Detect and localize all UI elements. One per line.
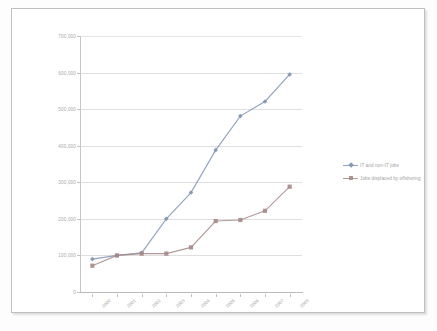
x-axis-tick — [265, 294, 266, 297]
legend-label: Jobs displaced by offshoring — [360, 176, 421, 181]
legend-item[interactable]: Jobs displaced by offshoring — [343, 174, 435, 182]
series-line — [92, 187, 289, 266]
y-axis-tick — [77, 109, 80, 110]
x-axis-tick-label: 2001 — [126, 298, 137, 309]
y-axis-tick — [77, 36, 80, 37]
y-axis-tick — [77, 292, 80, 293]
y-axis-tick-label: 500,000 — [34, 107, 76, 112]
y-axis-tick — [77, 182, 80, 183]
plot-area — [80, 36, 302, 292]
chart-page: 700,000600,000500,000400,000300,000200,0… — [0, 0, 437, 331]
data-point-marker — [90, 257, 95, 262]
y-axis-tick-label: 700,000 — [34, 34, 76, 39]
series-line — [92, 74, 289, 259]
data-point-marker — [164, 252, 168, 256]
y-axis-tick — [77, 255, 80, 256]
y-axis-tick-label: 0 — [34, 290, 76, 295]
data-point-marker — [288, 185, 292, 189]
data-point-marker — [90, 264, 94, 268]
y-axis-labels: 700,000600,000500,000400,000300,000200,0… — [26, 36, 76, 292]
value-axis-line — [80, 36, 81, 293]
y-axis-tick-label: 300,000 — [34, 180, 76, 185]
data-point-marker — [263, 209, 267, 213]
x-axis-tick — [166, 294, 167, 297]
category-axis-line — [80, 292, 303, 293]
y-axis-tick-label: 200,000 — [34, 216, 76, 221]
x-axis-tick-label: 2006 — [249, 298, 260, 309]
x-axis-tick — [117, 294, 118, 297]
y-axis-tick — [77, 219, 80, 220]
data-point-marker — [214, 219, 218, 223]
x-axis-tick — [142, 294, 143, 297]
x-axis-tick — [92, 294, 93, 297]
legend-item[interactable]: IT and non-IT jobs — [343, 161, 435, 169]
y-axis-tick — [77, 146, 80, 147]
data-point-marker — [140, 252, 144, 256]
x-axis-tick — [240, 294, 241, 297]
chart-frame: 700,000600,000500,000400,000300,000200,0… — [11, 8, 425, 313]
x-axis-tick-label: 2000 — [101, 298, 112, 309]
x-axis-tick-label: 2003 — [175, 298, 186, 309]
x-axis-tick — [191, 294, 192, 297]
x-axis-tick-label: 2004 — [200, 298, 211, 309]
data-point-marker — [238, 218, 242, 222]
x-axis-tick-label: 2007 — [274, 298, 285, 309]
legend-swatch-icon — [343, 175, 358, 182]
x-axis-tick-label: 2002 — [150, 298, 161, 309]
x-axis-labels: 200020012002200320042005200620072008 — [80, 294, 303, 318]
series-layer — [80, 36, 302, 292]
legend-swatch-icon — [343, 162, 358, 169]
x-axis-tick-label: 2005 — [224, 298, 235, 309]
y-axis-tick-label: 100,000 — [34, 253, 76, 258]
legend-label: IT and non-IT jobs — [360, 163, 399, 168]
y-axis-tick-label: 400,000 — [34, 143, 76, 148]
x-axis-tick — [216, 294, 217, 297]
x-axis-tick — [290, 294, 291, 297]
y-axis-tick — [77, 73, 80, 74]
x-axis-tick-label: 2008 — [298, 298, 309, 309]
data-point-marker — [189, 245, 193, 249]
data-point-marker — [115, 253, 119, 257]
y-axis-tick-label: 600,000 — [34, 70, 76, 75]
chart-legend: IT and non-IT jobsJobs displaced by offs… — [343, 161, 435, 187]
